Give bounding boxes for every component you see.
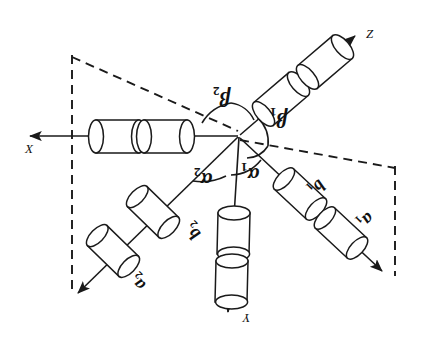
cylinder-x-inner xyxy=(137,120,195,153)
angle-label-alpha1-subscript: 1 xyxy=(241,160,248,175)
angle-label-beta1: β1 xyxy=(270,106,287,130)
angle-label-alpha1: α1 xyxy=(241,161,259,185)
angle-label-beta2-subscript: 2 xyxy=(213,84,220,99)
angle-label-alpha2: α2 xyxy=(194,166,212,190)
cylinder-y-outer xyxy=(215,254,248,309)
angle-label-beta1-subscript: 1 xyxy=(270,105,277,120)
guide-dashed-lower-diagonal xyxy=(240,140,395,168)
angle-label-beta2: β2 xyxy=(213,85,230,109)
angle-arc-beta2-b xyxy=(231,103,254,120)
axis-label-z: Z xyxy=(366,27,373,40)
angle-label-alpha2-subscript: 2 xyxy=(194,165,201,180)
cylinder-b2 xyxy=(123,182,183,242)
angle-label-alpha2-symbol: α xyxy=(201,168,213,192)
cylinder-y-inner xyxy=(217,206,250,261)
diagram-canvas: X Y Z β2 β1 α1 α2 b2 a2 b1 a1 xyxy=(0,0,421,356)
cylinder-a2 xyxy=(83,221,143,281)
axis-label-y: Y xyxy=(243,312,250,325)
axis-label-x: X xyxy=(25,142,33,155)
angle-label-beta1-symbol: β xyxy=(277,108,288,132)
angle-label-beta2-symbol: β xyxy=(220,87,231,111)
angle-label-alpha1-symbol: α xyxy=(248,163,260,187)
